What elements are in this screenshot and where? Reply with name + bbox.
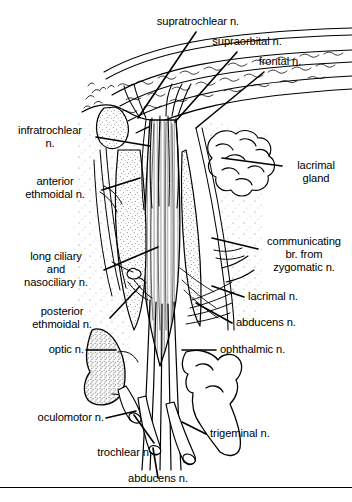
leader-supraorbital <box>175 52 237 122</box>
label-ophthalmic-nerve: ophthalmic n. <box>220 343 318 356</box>
label-lacrimal-gland: lacrimal gland <box>284 159 348 185</box>
supratrochlear-branch <box>124 84 146 118</box>
label-abducens-nerve-right: abducens n. <box>236 316 332 329</box>
label-infratrochlear-nerve: infratrochlear n. <box>6 124 94 150</box>
lateral-rectus-muscle <box>182 150 202 326</box>
label-frontal-nerve: frontal n. <box>232 55 328 68</box>
label-supratrochlear-nerve: supratrochlear n. <box>128 15 268 28</box>
label-posterior-ethmoidal-nerve: posterior ethmoidal n. <box>16 305 108 331</box>
anatomical-figure: supratrochlear n. supraorbital n. fronta… <box>0 0 352 502</box>
label-abducens-nerve-bottom: abducens n. <box>118 472 198 485</box>
brow-cut-edge <box>84 83 114 108</box>
label-trochlear-nerve: trochlear n. <box>72 446 152 459</box>
label-supraorbital-nerve: supraorbital n. <box>182 35 312 48</box>
label-communicating-branch-zygomatic: communicating br. from zygomatic n. <box>258 235 350 275</box>
bottom-divider-rule <box>0 487 352 488</box>
label-lacrimal-nerve: lacrimal n. <box>248 290 340 303</box>
label-long-ciliary-nasociliary-nerve: long ciliary and nasociliary n. <box>8 250 104 290</box>
label-anterior-ethmoidal-nerve: anterior ethmoidal n. <box>10 175 100 201</box>
label-oculomotor-nerve: oculomotor n. <box>8 411 104 424</box>
label-trigeminal-nerve: trigeminal n. <box>210 427 308 440</box>
label-optic-nerve: optic n. <box>8 343 84 356</box>
